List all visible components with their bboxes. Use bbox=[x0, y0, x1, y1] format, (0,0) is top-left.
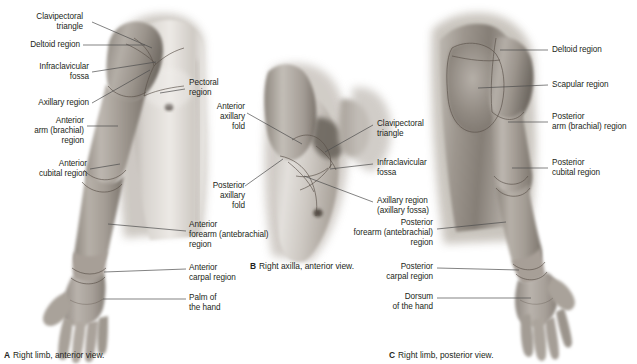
label-b-posterior-axillary-fold: Posterior axillary fold bbox=[185, 181, 245, 212]
label-c-deltoid-region: Deltoid region bbox=[552, 45, 634, 55]
caption-panel-c: CRight limb, posterior view. bbox=[389, 350, 493, 360]
label-b-infraclavicular-fossa: Infraclavicular fossa bbox=[377, 158, 457, 178]
caption-text-c: Right limb, posterior view. bbox=[398, 350, 493, 360]
label-c-dorsum-of-the-hand: Dorsum of the hand bbox=[340, 292, 433, 312]
label-c-posterior-forearm-antebrachial-region: Posterior forearm (antebrachial) region bbox=[325, 218, 433, 249]
label-a-infraclavicular-fossa: Infraclavicular fossa bbox=[0, 62, 89, 82]
label-c-posterior-cubital-region: Posterior cubital region bbox=[552, 158, 634, 178]
label-b-axillary-region-axillary-fossa: Axillary region (axillary fossa) bbox=[377, 196, 465, 216]
caption-panel-b: BRight axilla, anterior view. bbox=[250, 261, 354, 271]
label-a-palm-of-the-hand: Palm of the hand bbox=[189, 293, 255, 313]
caption-panel-a: ARight limb, anterior view. bbox=[4, 350, 104, 360]
caption-letter-a: A bbox=[4, 350, 10, 360]
label-a-deltoid-region: Deltoid region bbox=[0, 40, 80, 50]
caption-text-b: Right axilla, anterior view. bbox=[259, 261, 354, 271]
label-a-anterior-cubital-region: Anterior cubital region bbox=[0, 159, 87, 179]
label-b-clavipectoral-triangle: Clavipectoral triangle bbox=[377, 119, 452, 139]
label-c-scapular-region: Scapular region bbox=[552, 80, 634, 90]
label-a-clavipectoral-triangle: Clavipectoral triangle bbox=[0, 12, 83, 32]
panel-c-artwork bbox=[432, 13, 575, 361]
label-a-axillary-region: Axillary region bbox=[0, 98, 89, 108]
caption-letter-b: B bbox=[250, 261, 256, 271]
label-a-pectoral-region: Pectoral region bbox=[189, 78, 251, 98]
anatomy-figure-canvas bbox=[0, 0, 637, 364]
caption-text-a: Right limb, anterior view. bbox=[13, 350, 104, 360]
label-a-anterior-arm-brachial-region: Anterior arm (brachial) region bbox=[0, 116, 84, 147]
label-b-anterior-axillary-fold: Anterior axillary fold bbox=[185, 102, 245, 133]
caption-letter-c: C bbox=[389, 350, 395, 360]
label-a-anterior-forearm-antebrachial-region: Anterior forearm (antebrachial) region bbox=[189, 220, 297, 251]
label-c-posterior-arm-brachial-region: Posterior arm (brachial) region bbox=[552, 112, 637, 132]
